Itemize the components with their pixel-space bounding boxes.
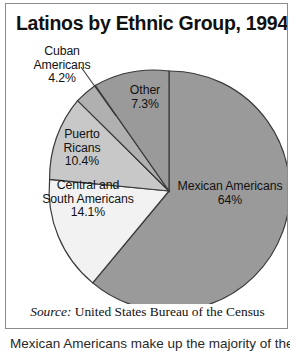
clipped-caption: Mexican Americans make up the majority o…	[10, 336, 290, 351]
slice-label-central-south-americans: Central and South Americans 14.1%	[32, 179, 144, 220]
source-prefix: Source:	[30, 304, 71, 319]
slice-label-cuban-americans: Cuban Americans 4.2%	[20, 45, 104, 86]
slice-label-other: Other 7.3%	[116, 84, 174, 111]
source-text: United States Bureau of the Census	[71, 304, 264, 319]
slice-label-mexican-americans: Mexican Americans 64%	[174, 180, 286, 207]
figure-frame: Latinos by Ethnic Group, 1994 Cuban Amer…	[5, 3, 288, 329]
slice-label-puerto-ricans: Puerto Ricans 10.4%	[46, 128, 118, 169]
source-line: Source: United States Bureau of the Cens…	[6, 304, 288, 320]
